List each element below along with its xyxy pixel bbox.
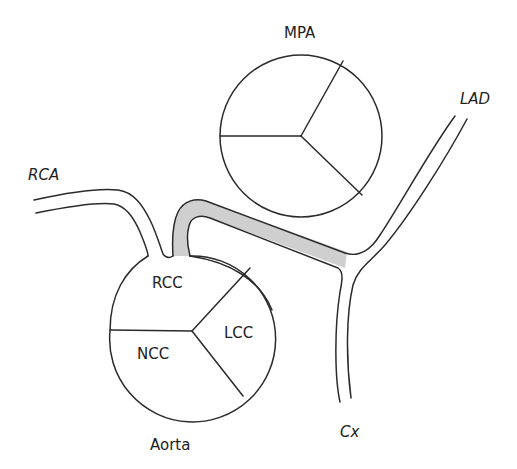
label-rcc: RCC (152, 274, 183, 292)
mpa-commissure-1 (301, 61, 343, 136)
label-ncc: NCC (137, 345, 169, 363)
label-rca: RCA (28, 166, 59, 184)
mpa-commissure-3 (301, 136, 362, 195)
coronary-anatomy-diagram: MPA RCA LAD RCC LCC NCC Aorta Cx (0, 0, 517, 469)
label-cx: Cx (340, 423, 359, 441)
aorta-commissure-rcc-lcc (192, 268, 250, 331)
label-lad: LAD (460, 90, 490, 108)
aorta-commissure-rcc-ncc (110, 330, 192, 331)
rca-lower-wall (36, 203, 148, 256)
left-coronary-upper-wall (173, 116, 455, 256)
aorta-left-wall-join (190, 256, 272, 310)
rca-upper-wall (34, 189, 173, 257)
mpa-valve (220, 55, 382, 217)
label-mpa: MPA (284, 24, 316, 42)
label-lcc: LCC (224, 324, 253, 342)
lad-cx-bifurcation-wall (347, 119, 467, 398)
label-aorta: Aorta (150, 436, 190, 454)
